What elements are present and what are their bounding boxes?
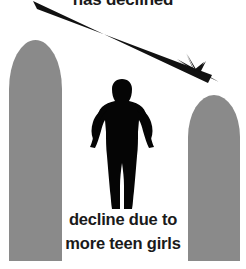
bar-left-before	[9, 40, 62, 261]
infographic-canvas: has declined decline due to more teen gi…	[0, 0, 246, 269]
caption-line-1: decline due to	[0, 211, 246, 228]
headline-text: has declined	[0, 0, 246, 8]
caption-line-2: more teen girls	[0, 235, 246, 252]
woman-silhouette-icon	[86, 78, 158, 210]
